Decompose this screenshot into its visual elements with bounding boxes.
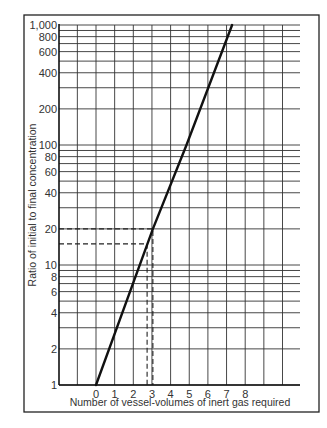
- y-tick-label: 80: [45, 151, 57, 163]
- x-gridlines: [77, 25, 282, 385]
- dashed-guide-line: [59, 229, 153, 385]
- y-tick-label: 60: [45, 166, 57, 178]
- y-tick-label: 20: [45, 223, 57, 235]
- chart: 1246810204060801002004006008001,000 0123…: [0, 0, 327, 428]
- dashed-guides: [59, 229, 153, 385]
- y-tick-label: 600: [39, 46, 57, 58]
- y-tick-label: 4: [51, 307, 57, 319]
- y-tick-label: 200: [39, 103, 57, 115]
- y-tick-label: 1,000: [29, 19, 57, 31]
- y-tick-label: 10: [45, 259, 57, 271]
- y-tick-label: 800: [39, 31, 57, 43]
- series-line: [96, 25, 232, 385]
- y-tick-label: 2: [51, 343, 57, 355]
- y-axis-label: Ratio of initial to final concentration: [26, 123, 38, 286]
- y-tick-label: 100: [39, 139, 57, 151]
- series: [96, 25, 232, 385]
- y-tick-label: 400: [39, 67, 57, 79]
- y-tick-label: 1: [51, 379, 57, 391]
- y-tick-label: 40: [45, 187, 57, 199]
- y-tick-label: 8: [51, 271, 57, 283]
- chart-frame: [24, 15, 319, 412]
- x-axis-label: Number of vessel-volumes of inert gas re…: [70, 396, 291, 408]
- y-tick-label: 6: [51, 286, 57, 298]
